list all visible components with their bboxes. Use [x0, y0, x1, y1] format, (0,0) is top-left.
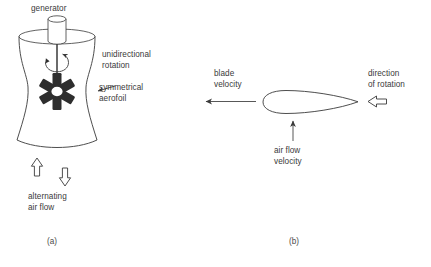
panel-b-caption: (b) — [289, 237, 299, 246]
blade-velocity-label: blade velocity — [214, 69, 242, 90]
diagram-svg — [0, 0, 431, 267]
figure-container: generator unidirectional rotation symmet… — [0, 0, 431, 267]
duct-bottom-arc — [17, 140, 97, 148]
hollow-arrow-down-icon — [59, 168, 70, 186]
alternating-air-flow-label: alternating air flow — [28, 192, 67, 213]
generator-top-cap — [48, 16, 66, 22]
rotor-hub — [51, 86, 64, 97]
generator-label: generator — [31, 4, 67, 15]
hollow-arrow-left-icon — [368, 96, 387, 107]
unidirectional-rotation-label: unidirectional rotation — [102, 50, 151, 71]
symmetrical-aerofoil-label: symmetrical aerofoil — [99, 83, 143, 104]
generator-body — [48, 19, 66, 44]
duct-right-wall — [86, 37, 97, 141]
duct-left-wall — [17, 37, 28, 141]
symmetrical-aerofoil-shape — [263, 91, 358, 114]
direction-of-rotation-label: direction of rotation — [368, 69, 405, 90]
hollow-arrow-up-icon — [31, 158, 42, 176]
panel-a-caption: (a) — [47, 237, 57, 246]
curved-rotation-arrow-tip — [45, 58, 49, 63]
air-flow-velocity-label: air flow velocity — [274, 146, 302, 167]
